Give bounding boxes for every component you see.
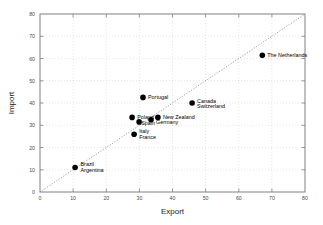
- plot-canvas: 0 10 20 30 40 50 60 70 80 0 10 20 30 40 …: [0, 0, 323, 225]
- y-tick-label-40: 40: [29, 100, 35, 106]
- point-label-new-zealand: New Zealand: [163, 114, 195, 120]
- y-axis-tick-labels: 0 10 20 30 40 50 60 70 80: [29, 11, 35, 195]
- x-tick-label-10: 10: [70, 195, 76, 201]
- point-label-germany: Germany: [156, 119, 178, 125]
- data-point-netherlands[interactable]: [260, 52, 266, 58]
- x-tick-label-50: 50: [203, 195, 209, 201]
- y-tick-label-10: 10: [29, 167, 35, 173]
- x-axis-title: Export: [161, 207, 185, 216]
- data-point-brazil-argentina[interactable]: [72, 165, 78, 171]
- data-point-germany[interactable]: [148, 117, 154, 123]
- x-tick-label-70: 70: [269, 195, 275, 201]
- x-tick-label-60: 60: [236, 195, 242, 201]
- point-label-netherlands: The Netherlands: [267, 52, 307, 58]
- data-point-canada-switzerland[interactable]: [189, 100, 195, 106]
- point-label-argentina: Argentina: [81, 167, 104, 173]
- y-tick-label-0: 0: [32, 189, 35, 195]
- x-tick-label-20: 20: [103, 195, 109, 201]
- data-point-poland[interactable]: [129, 115, 135, 121]
- y-tick-label-80: 80: [29, 11, 35, 17]
- y-tick-label-60: 60: [29, 56, 35, 62]
- data-point-italy-france[interactable]: [131, 131, 137, 137]
- y-tick-label-50: 50: [29, 78, 35, 84]
- y-tick-label-70: 70: [29, 33, 35, 39]
- x-axis-tick-labels: 0 10 20 30 40 50 60 70 80: [39, 195, 308, 201]
- x-tick-label-30: 30: [137, 195, 143, 201]
- point-label-portugal: Portugal: [148, 94, 168, 100]
- x-tick-label-0: 0: [39, 195, 42, 201]
- data-point-new-zealand[interactable]: [155, 115, 161, 121]
- x-tick-label-80: 80: [302, 195, 308, 201]
- y-axis-title: Import: [7, 91, 16, 114]
- y-tick-label-30: 30: [29, 122, 35, 128]
- scatter-plot-figure: 0 10 20 30 40 50 60 70 80 0 10 20 30 40 …: [0, 0, 323, 225]
- point-label-switzerland: Switzerland: [197, 103, 225, 109]
- x-tick-label-40: 40: [170, 195, 176, 201]
- y-tick-label-20: 20: [29, 145, 35, 151]
- data-point-portugal[interactable]: [140, 95, 146, 101]
- point-label-france: France: [139, 134, 156, 140]
